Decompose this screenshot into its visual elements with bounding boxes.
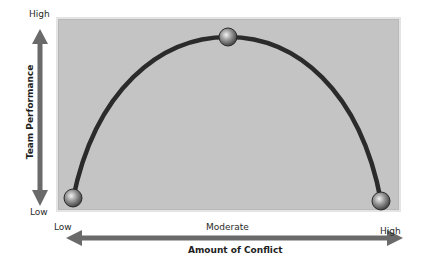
x-axis-moderate-label: Moderate [206,222,249,232]
y-axis-high-label: High [29,9,50,19]
performance-curve [73,37,381,201]
x-axis-title: Amount of Conflict [188,245,283,255]
x-axis-low-label: Low [54,222,72,232]
y-axis-title: Team Performance [25,65,35,160]
horizontal-double-arrow-icon [66,230,403,246]
high-conflict-point [372,192,390,210]
x-axis-high-label: High [380,226,401,236]
moderate-conflict-point [219,28,237,46]
low-conflict-point [64,189,82,207]
y-axis-low-label: Low [30,207,48,217]
